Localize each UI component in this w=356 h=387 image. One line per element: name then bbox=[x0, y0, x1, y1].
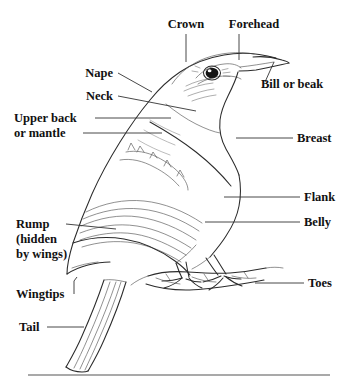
anatomy-labels: Crown Forehead Bill or beak Nape Neck Up… bbox=[14, 17, 335, 334]
label-crown: Crown bbox=[168, 17, 205, 31]
tail-upper-edge bbox=[66, 280, 104, 367]
throat-breast-outline bbox=[220, 72, 239, 175]
tail-feather-lines bbox=[74, 282, 121, 370]
label-wingtips: Wingtips bbox=[16, 287, 65, 301]
label-or-mantle: or mantle bbox=[14, 126, 66, 140]
beak-lower bbox=[239, 63, 289, 71]
label-nape: Nape bbox=[85, 66, 113, 80]
branch-top-edge bbox=[148, 268, 266, 276]
diagram-canvas: Crown Forehead Bill or beak Nape Neck Up… bbox=[0, 0, 356, 387]
tail-base-line bbox=[104, 280, 126, 282]
branch-twig-right bbox=[266, 267, 283, 268]
wingtip-inner bbox=[72, 262, 98, 268]
branch-twig-left bbox=[131, 276, 148, 285]
label-toes: Toes bbox=[308, 276, 332, 290]
bird-back-outline bbox=[67, 53, 276, 274]
eye-highlight bbox=[208, 69, 212, 72]
foot-front-toes bbox=[203, 276, 242, 290]
bird-anatomy-diagram: Crown Forehead Bill or beak Nape Neck Up… bbox=[0, 0, 356, 387]
tail-tip bbox=[66, 367, 88, 372]
eye-stripe bbox=[196, 64, 241, 78]
belly-under-line bbox=[176, 245, 196, 263]
leg-front-2 bbox=[214, 255, 226, 274]
eye-pupil bbox=[206, 68, 219, 78]
tail-lower-edge bbox=[88, 282, 126, 371]
beak-upper bbox=[253, 57, 289, 63]
label-neck: Neck bbox=[86, 89, 113, 103]
wing-covert-edge-2 bbox=[120, 159, 179, 186]
label-rump-hidden: (hidden bbox=[16, 232, 57, 246]
vent-contour bbox=[192, 257, 210, 269]
foot-rear-toes bbox=[162, 278, 202, 288]
nape-leader bbox=[118, 73, 152, 92]
branch-texture bbox=[156, 272, 256, 284]
label-flank: Flank bbox=[304, 190, 335, 204]
mantle-markings bbox=[138, 120, 180, 155]
rump-leader bbox=[66, 224, 116, 229]
shoulder-line bbox=[166, 104, 220, 133]
label-belly: Belly bbox=[304, 215, 332, 229]
breast-belly-outline bbox=[210, 175, 241, 257]
wingtips-leader bbox=[74, 277, 77, 294]
cheek-hatching bbox=[184, 78, 216, 101]
wingtip-point bbox=[67, 262, 110, 274]
label-rump: Rump bbox=[16, 217, 49, 231]
label-forehead: Forehead bbox=[229, 17, 280, 31]
wing-covert-block bbox=[126, 151, 188, 190]
neck-leader bbox=[118, 96, 196, 111]
wing-upper-edge bbox=[150, 122, 231, 186]
label-breast: Breast bbox=[297, 131, 332, 145]
leg-rear-2 bbox=[186, 262, 189, 277]
label-tail: Tail bbox=[19, 320, 40, 334]
leg-front bbox=[206, 258, 218, 275]
label-upper-back: Upper back bbox=[14, 111, 77, 125]
label-bill-or-beak: Bill or beak bbox=[261, 77, 323, 91]
wing-lower-edge bbox=[73, 238, 190, 275]
beak-gape-line bbox=[240, 62, 274, 67]
wing-flight-feathers bbox=[80, 200, 202, 262]
label-rump-by-wings: by wings) bbox=[16, 247, 67, 261]
